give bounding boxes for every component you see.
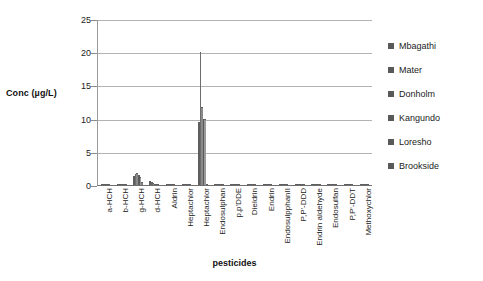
legend-swatch-icon bbox=[388, 91, 394, 97]
bar-group bbox=[198, 20, 209, 185]
bar-group bbox=[360, 20, 371, 185]
legend-item[interactable]: Mbagathi bbox=[388, 34, 480, 58]
bar bbox=[157, 184, 159, 185]
legend-swatch-icon bbox=[388, 163, 394, 169]
y-tick-label: 10 bbox=[61, 115, 91, 125]
bar bbox=[206, 184, 208, 185]
bar bbox=[271, 184, 273, 185]
y-tick-label: 0 bbox=[61, 181, 91, 191]
bar-group bbox=[327, 20, 338, 185]
bar bbox=[238, 184, 240, 185]
x-tick-label: Heptachlor bbox=[187, 188, 195, 227]
x-tick-label: Dieldrin bbox=[251, 188, 259, 215]
y-tick-label: 15 bbox=[61, 81, 91, 91]
bar bbox=[174, 184, 176, 185]
x-tick-label: d-HCH bbox=[154, 188, 162, 212]
bar-group bbox=[230, 20, 241, 185]
x-tick-label: Endrin aldehyde bbox=[316, 188, 324, 246]
legend-swatch-icon bbox=[388, 43, 394, 49]
legend-swatch-icon bbox=[388, 67, 394, 73]
bar bbox=[109, 184, 111, 185]
x-axis-tick-labels: a-HCHb-HCHg-HCHd-HCHAldrinHeptachlorHept… bbox=[97, 188, 372, 250]
legend-item[interactable]: Donholm bbox=[388, 82, 480, 106]
x-tick-label: Endrin bbox=[268, 188, 276, 211]
bar bbox=[222, 184, 224, 185]
legend-item[interactable]: Loresho bbox=[388, 130, 480, 154]
legend-item[interactable]: Mater bbox=[388, 58, 480, 82]
bar-group bbox=[295, 20, 306, 185]
plot-area bbox=[97, 20, 372, 186]
bar bbox=[204, 119, 206, 185]
bar-group bbox=[182, 20, 193, 185]
y-tick-label: 5 bbox=[61, 148, 91, 158]
bar bbox=[141, 182, 143, 185]
bar-group bbox=[117, 20, 128, 185]
legend-swatch-icon bbox=[388, 115, 394, 121]
bar bbox=[335, 184, 337, 185]
x-tick-label: P,P'-DDT bbox=[349, 188, 357, 221]
bar-group bbox=[166, 20, 177, 185]
legend-label: Brookside bbox=[399, 161, 439, 171]
bar bbox=[125, 184, 127, 185]
x-tick-label: p,p'DDE bbox=[235, 188, 243, 218]
bar-group bbox=[214, 20, 225, 185]
x-tick-label: b-HCH bbox=[122, 188, 130, 212]
y-tick-label: 20 bbox=[61, 48, 91, 58]
y-tick-mark bbox=[91, 186, 97, 187]
x-tick-label: EndosulpphanII bbox=[284, 188, 292, 244]
bar bbox=[352, 184, 354, 185]
x-axis-title: pesticides bbox=[97, 258, 372, 268]
bar-group bbox=[247, 20, 258, 185]
x-tick-label: Endosulfan bbox=[332, 188, 340, 228]
bar bbox=[190, 184, 192, 185]
bar-group bbox=[311, 20, 322, 185]
legend-label: Mater bbox=[399, 65, 422, 75]
bar bbox=[319, 184, 321, 185]
bar bbox=[303, 184, 305, 185]
x-tick-label: g-HCH bbox=[138, 188, 146, 212]
chart-legend: MbagathiMaterDonholmKangundoLoreshoBrook… bbox=[388, 34, 480, 178]
legend-item[interactable]: Kangundo bbox=[388, 106, 480, 130]
bar-group bbox=[263, 20, 274, 185]
y-tick-label: 25 bbox=[61, 15, 91, 25]
bar-group bbox=[133, 20, 144, 185]
x-tick-label: a-HCH bbox=[106, 188, 114, 212]
legend-label: Mbagathi bbox=[399, 41, 436, 51]
legend-label: Kangundo bbox=[399, 113, 440, 123]
legend-label: Donholm bbox=[399, 89, 435, 99]
bar-group bbox=[101, 20, 112, 185]
bar bbox=[254, 184, 256, 185]
legend-item[interactable]: Brookside bbox=[388, 154, 480, 178]
x-tick-label: Endosulphan bbox=[219, 188, 227, 235]
legend-swatch-icon bbox=[388, 139, 394, 145]
bar bbox=[368, 184, 370, 185]
x-tick-label: Aldrin bbox=[171, 188, 179, 208]
bar bbox=[287, 184, 289, 185]
x-tick-label: Methoxychlor bbox=[365, 188, 373, 236]
x-tick-label: P,P'-DDD bbox=[300, 188, 308, 221]
bars-layer bbox=[98, 20, 372, 185]
bar-group bbox=[279, 20, 290, 185]
bar-group bbox=[149, 20, 160, 185]
legend-label: Loresho bbox=[399, 137, 432, 147]
bar-group bbox=[344, 20, 355, 185]
x-tick-label: Heptachlor bbox=[203, 188, 211, 227]
bar-chart-figure: Conc (µg/L) 0510152025 a-HCHb-HCHg-HCHd-… bbox=[0, 0, 483, 281]
